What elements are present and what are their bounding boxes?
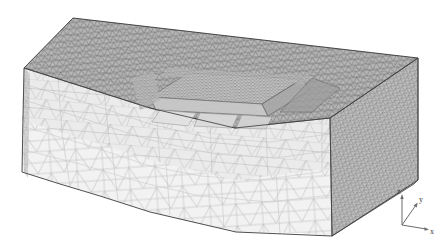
x-axis-label: x	[430, 227, 434, 236]
x-axis-arrow	[424, 227, 429, 231]
z-axis-label: z	[397, 187, 401, 196]
y-axis-label: y	[419, 195, 423, 204]
y-axis-line	[402, 205, 416, 225]
mesh-diagram	[0, 0, 442, 243]
coordinate-axes: z y x	[388, 185, 440, 241]
figure-canvas: z y x	[0, 0, 442, 243]
z-axis-arrow	[400, 194, 403, 199]
x-axis-line	[402, 225, 426, 229]
